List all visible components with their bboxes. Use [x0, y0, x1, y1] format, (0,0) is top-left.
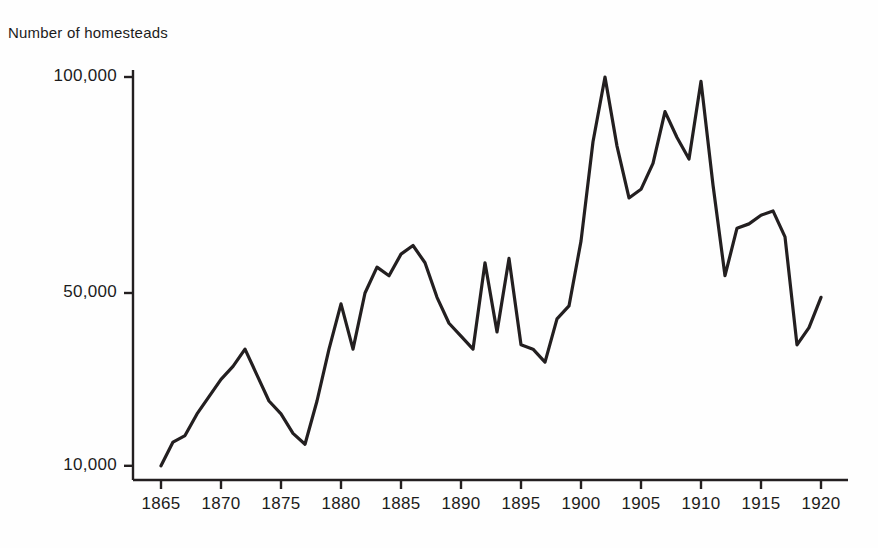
x-tick-label-1920: 1920	[791, 494, 851, 514]
chart-container: Number of homesteads 100,00050,00010,000…	[0, 0, 878, 548]
x-tick-label-1870: 1870	[191, 494, 251, 514]
x-tick-label-1905: 1905	[611, 494, 671, 514]
x-tick-label-1865: 1865	[131, 494, 191, 514]
x-tick-label-1880: 1880	[311, 494, 371, 514]
chart-axes	[133, 70, 848, 480]
chart-ticks	[124, 77, 821, 489]
x-tick-label-1895: 1895	[491, 494, 551, 514]
x-tick-label-1900: 1900	[551, 494, 611, 514]
x-tick-label-1885: 1885	[371, 494, 431, 514]
y-tick-label-100000: 100,000	[53, 66, 117, 86]
x-tick-label-1890: 1890	[431, 494, 491, 514]
x-tick-label-1915: 1915	[731, 494, 791, 514]
x-tick-label-1910: 1910	[671, 494, 731, 514]
homesteads-series-line	[161, 77, 821, 466]
y-tick-label-10000: 10,000	[63, 455, 117, 475]
x-tick-label-1875: 1875	[251, 494, 311, 514]
y-tick-label-50000: 50,000	[63, 282, 117, 302]
line-chart-plot	[0, 0, 878, 548]
